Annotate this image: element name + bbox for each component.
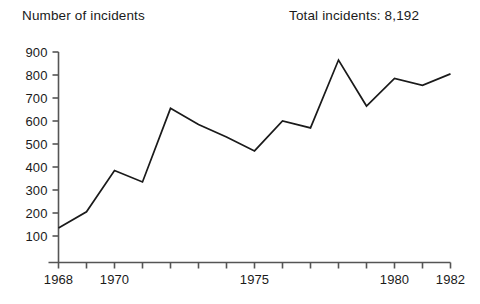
x-axis: 19681970197519801982 [44, 263, 465, 287]
x-axis-tick-label: 1975 [240, 272, 269, 287]
incidents-line [59, 60, 451, 228]
y-axis-tick-label: 800 [26, 68, 48, 83]
y-axis-tick-label: 300 [26, 183, 48, 198]
y-axis-tick-label: 700 [26, 91, 48, 106]
chart-plot-area: 100200300400500600700800900 196819701975… [0, 0, 480, 304]
y-axis: 100200300400500600700800900 [26, 45, 59, 263]
y-axis-tick-label: 500 [26, 137, 48, 152]
x-axis-tick-label: 1970 [100, 272, 129, 287]
x-axis-tick-label: 1982 [436, 272, 465, 287]
y-axis-tick-label: 600 [26, 114, 48, 129]
y-axis-tick-label: 400 [26, 160, 48, 175]
y-axis-tick-label: 900 [26, 45, 48, 60]
x-axis-tick-label: 1980 [380, 272, 409, 287]
x-axis-tick-label: 1968 [44, 272, 73, 287]
incidents-line-chart: Number of incidents Total incidents: 8,1… [0, 0, 480, 304]
data-series-incidents [59, 60, 451, 228]
y-axis-tick-label: 200 [26, 206, 48, 221]
y-axis-tick-label: 100 [26, 229, 48, 244]
